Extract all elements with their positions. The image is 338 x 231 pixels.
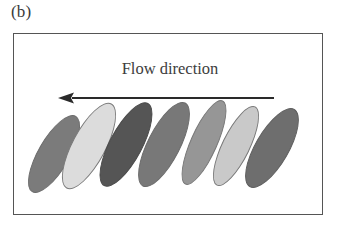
panel-label: (b) xyxy=(11,2,31,22)
diagram-frame: Flow direction xyxy=(13,33,323,215)
flow-direction-label: Flow direction xyxy=(14,59,322,78)
arrow-head-icon xyxy=(58,93,74,104)
flow-direction-arrow xyxy=(58,90,274,106)
figure-panel-b: (b) Flow direction xyxy=(0,0,338,231)
